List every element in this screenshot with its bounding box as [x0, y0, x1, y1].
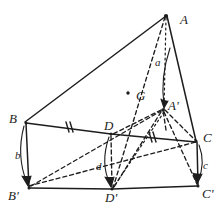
label-point-D: D	[104, 119, 113, 132]
label-measure-b: b	[15, 150, 21, 161]
point-Ap	[161, 108, 164, 111]
edge-A-C	[167, 16, 196, 141]
label-point-B: B	[9, 112, 17, 125]
point-A	[164, 14, 168, 18]
tick-dc-2	[153, 132, 156, 142]
point-G	[126, 91, 129, 94]
altitude-A-Ap	[113, 18, 166, 188]
label-point-G: G	[136, 89, 145, 102]
geometry-canvas	[0, 0, 223, 214]
arrow-d-head	[105, 177, 114, 187]
label-point-A: A	[180, 13, 188, 26]
point-B	[25, 122, 28, 125]
tick-bd-1	[66, 122, 69, 132]
point-C	[195, 140, 198, 143]
label-measure-a: a	[155, 57, 161, 68]
tick-bd-2	[70, 122, 73, 132]
label-point-C-prime: C'	[202, 187, 213, 200]
edge-Dp-Cp	[112, 186, 198, 189]
arrow-b-head	[22, 176, 31, 186]
edge-A-B	[25, 16, 166, 122]
label-point-A-prime: A'	[168, 99, 179, 112]
edge-Ap-D	[113, 110, 161, 134]
label-point-B-prime: B'	[8, 189, 19, 202]
point-Bp	[28, 187, 31, 190]
edge-Bp-Ap	[31, 111, 161, 186]
arrow-a-curve	[163, 48, 170, 105]
label-measure-d: d	[96, 161, 102, 172]
label-point-D-prime: D'	[105, 191, 117, 204]
point-Cp	[197, 185, 200, 188]
label-measure-c: c	[203, 160, 208, 171]
geometry-figure: A B C D B' C' D' A' G a b c d	[0, 0, 223, 214]
edge-Bp-Dp	[29, 188, 112, 189]
label-point-C: C	[203, 131, 212, 144]
arrow-a-head	[161, 99, 168, 108]
